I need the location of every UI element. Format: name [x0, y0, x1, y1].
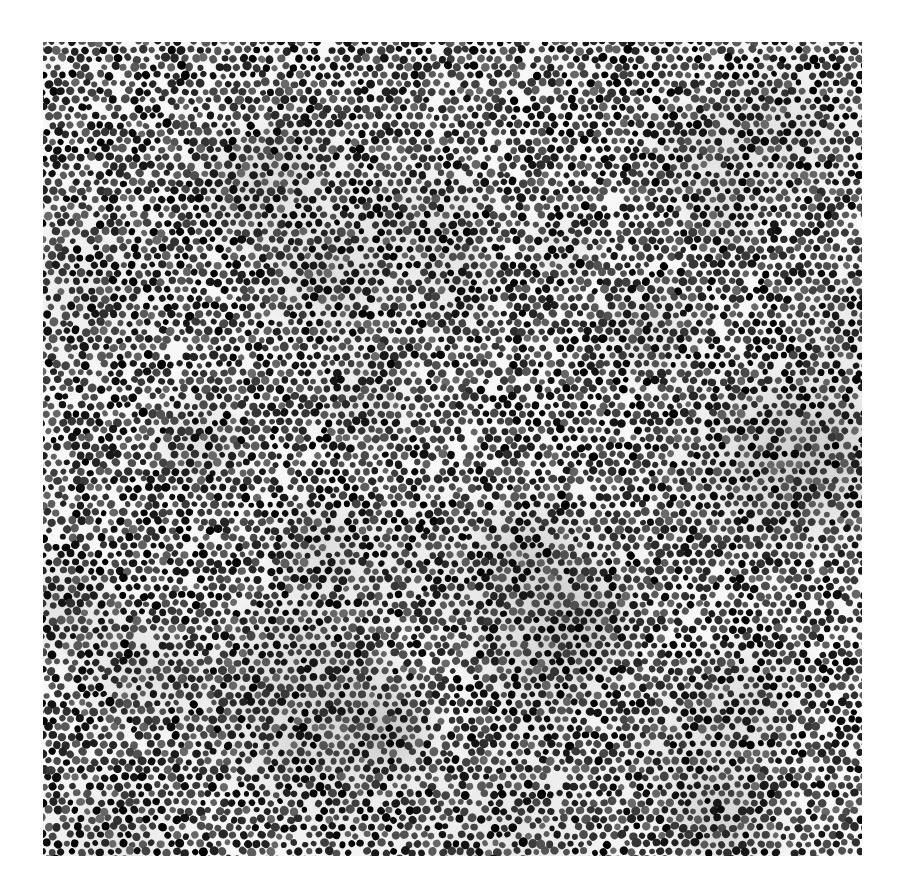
particle-field-image [43, 42, 862, 856]
figure-caption [50, 878, 860, 887]
micrograph-figure [43, 42, 862, 856]
